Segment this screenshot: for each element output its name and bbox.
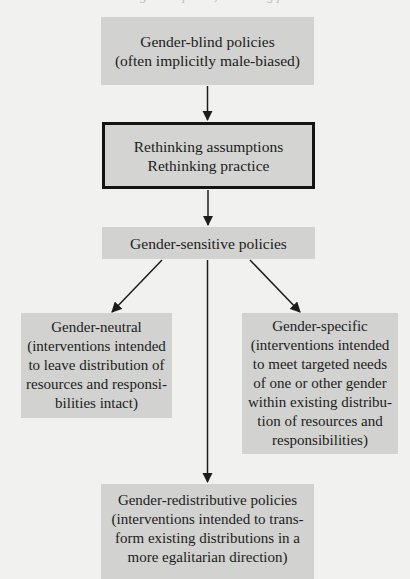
node-description-line: to leave distribution of xyxy=(28,356,164,375)
node-title: Gender-redistributive policies xyxy=(118,491,297,510)
node-description-line: more egalitarian direction) xyxy=(128,548,288,567)
node-description-line: within existing distribu- xyxy=(248,393,392,412)
node-description-line: (interventions intended to trans- xyxy=(111,510,303,529)
node-description-line: (interventions intended xyxy=(27,337,166,356)
node-title: Gender-neutral xyxy=(51,318,141,337)
node-gender-redistributive-policies: Gender-redistributive policies (interven… xyxy=(101,484,314,579)
cut-off-caption: Rethinking assumptions, rethinking pract… xyxy=(60,0,350,4)
node-title: Gender-specific xyxy=(272,317,367,336)
node-title: Gender-blind policies xyxy=(140,32,274,51)
node-gender-sensitive-policies: Gender-sensitive policies xyxy=(102,227,315,259)
node-description-line: tion of resources and xyxy=(257,412,382,431)
node-line: Rethinking practice xyxy=(148,156,270,175)
node-gender-blind-policies: Gender-blind policies (often implicitly … xyxy=(101,17,314,85)
node-gender-neutral: Gender-neutral (interventions intended t… xyxy=(21,313,172,418)
node-description-line: resources and responsi- xyxy=(26,375,167,394)
arrow-sensitive-to-specific xyxy=(250,260,300,312)
node-description-line: to meet targeted needs xyxy=(253,355,387,374)
node-description-line: responsibilities) xyxy=(272,431,368,450)
node-gender-specific: Gender-specific (interventions intended … xyxy=(242,313,398,454)
node-description-line: (interventions intended xyxy=(251,336,390,355)
node-description: (often implicitly male-biased) xyxy=(115,51,300,70)
node-line: Rethinking assumptions xyxy=(134,137,283,156)
node-title: Gender-sensitive policies xyxy=(130,234,287,253)
node-description-line: form existing distributions in a xyxy=(115,529,300,548)
arrow-sensitive-to-neutral xyxy=(112,260,162,312)
node-description-line: of one or other gender xyxy=(253,374,386,393)
node-rethinking: Rethinking assumptions Rethinking practi… xyxy=(102,122,315,189)
node-description-line: bilities intact) xyxy=(55,394,138,413)
